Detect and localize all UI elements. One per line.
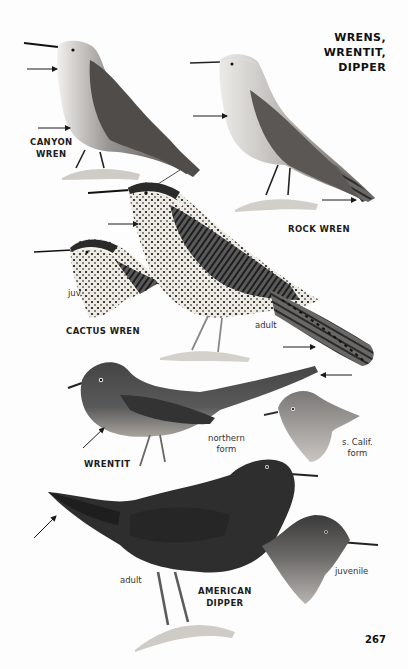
american-dipper-label: AMERICAN DIPPER (198, 585, 252, 609)
field-guide-page: WRENS, WRENTIT, DIPPER CANYON WREN ROCK … (0, 0, 408, 669)
dipper-adult-annotation: adult (120, 575, 142, 586)
title-line-1: WRENS, (324, 30, 386, 45)
s-calif-line-1: s. Calif. (342, 437, 373, 448)
cactus-wren-juvenile-head (34, 239, 160, 318)
cactus-wren-label: CACTUS WREN (66, 325, 140, 337)
wrentit-label: WRENTIT (84, 458, 130, 470)
cactus-wren-adult-annotation: adult (255, 320, 277, 331)
title-line-3: DIPPER (324, 60, 386, 75)
page-number: 267 (365, 634, 386, 645)
northern-line-1: northern (208, 433, 245, 444)
dipper-label-line-2: DIPPER (198, 597, 252, 609)
wrentit-northern-form-annotation: northern form (208, 433, 245, 455)
page-title: WRENS, WRENTIT, DIPPER (324, 30, 386, 75)
canyon-wren-label: CANYON WREN (30, 136, 73, 160)
cactus-wren-juv-annotation: juv. (68, 288, 83, 299)
wrentit-breast-arrow (83, 428, 104, 448)
rock-wren-label: ROCK WREN (288, 223, 350, 235)
rock-wren-illustration (190, 54, 375, 212)
northern-line-2: form (208, 444, 245, 455)
dipper-juvenile-annotation: juvenile (335, 566, 368, 577)
dipper-tail-arrow (34, 516, 56, 538)
wrentit-s-calif-form-annotation: s. Calif. form (342, 437, 373, 459)
title-line-2: WRENTIT, (324, 45, 386, 60)
s-calif-line-2: form (342, 448, 373, 459)
canyon-wren-label-line-2: WREN (30, 148, 73, 160)
canyon-wren-label-line-1: CANYON (30, 136, 73, 148)
dipper-label-line-1: AMERICAN (198, 585, 252, 597)
